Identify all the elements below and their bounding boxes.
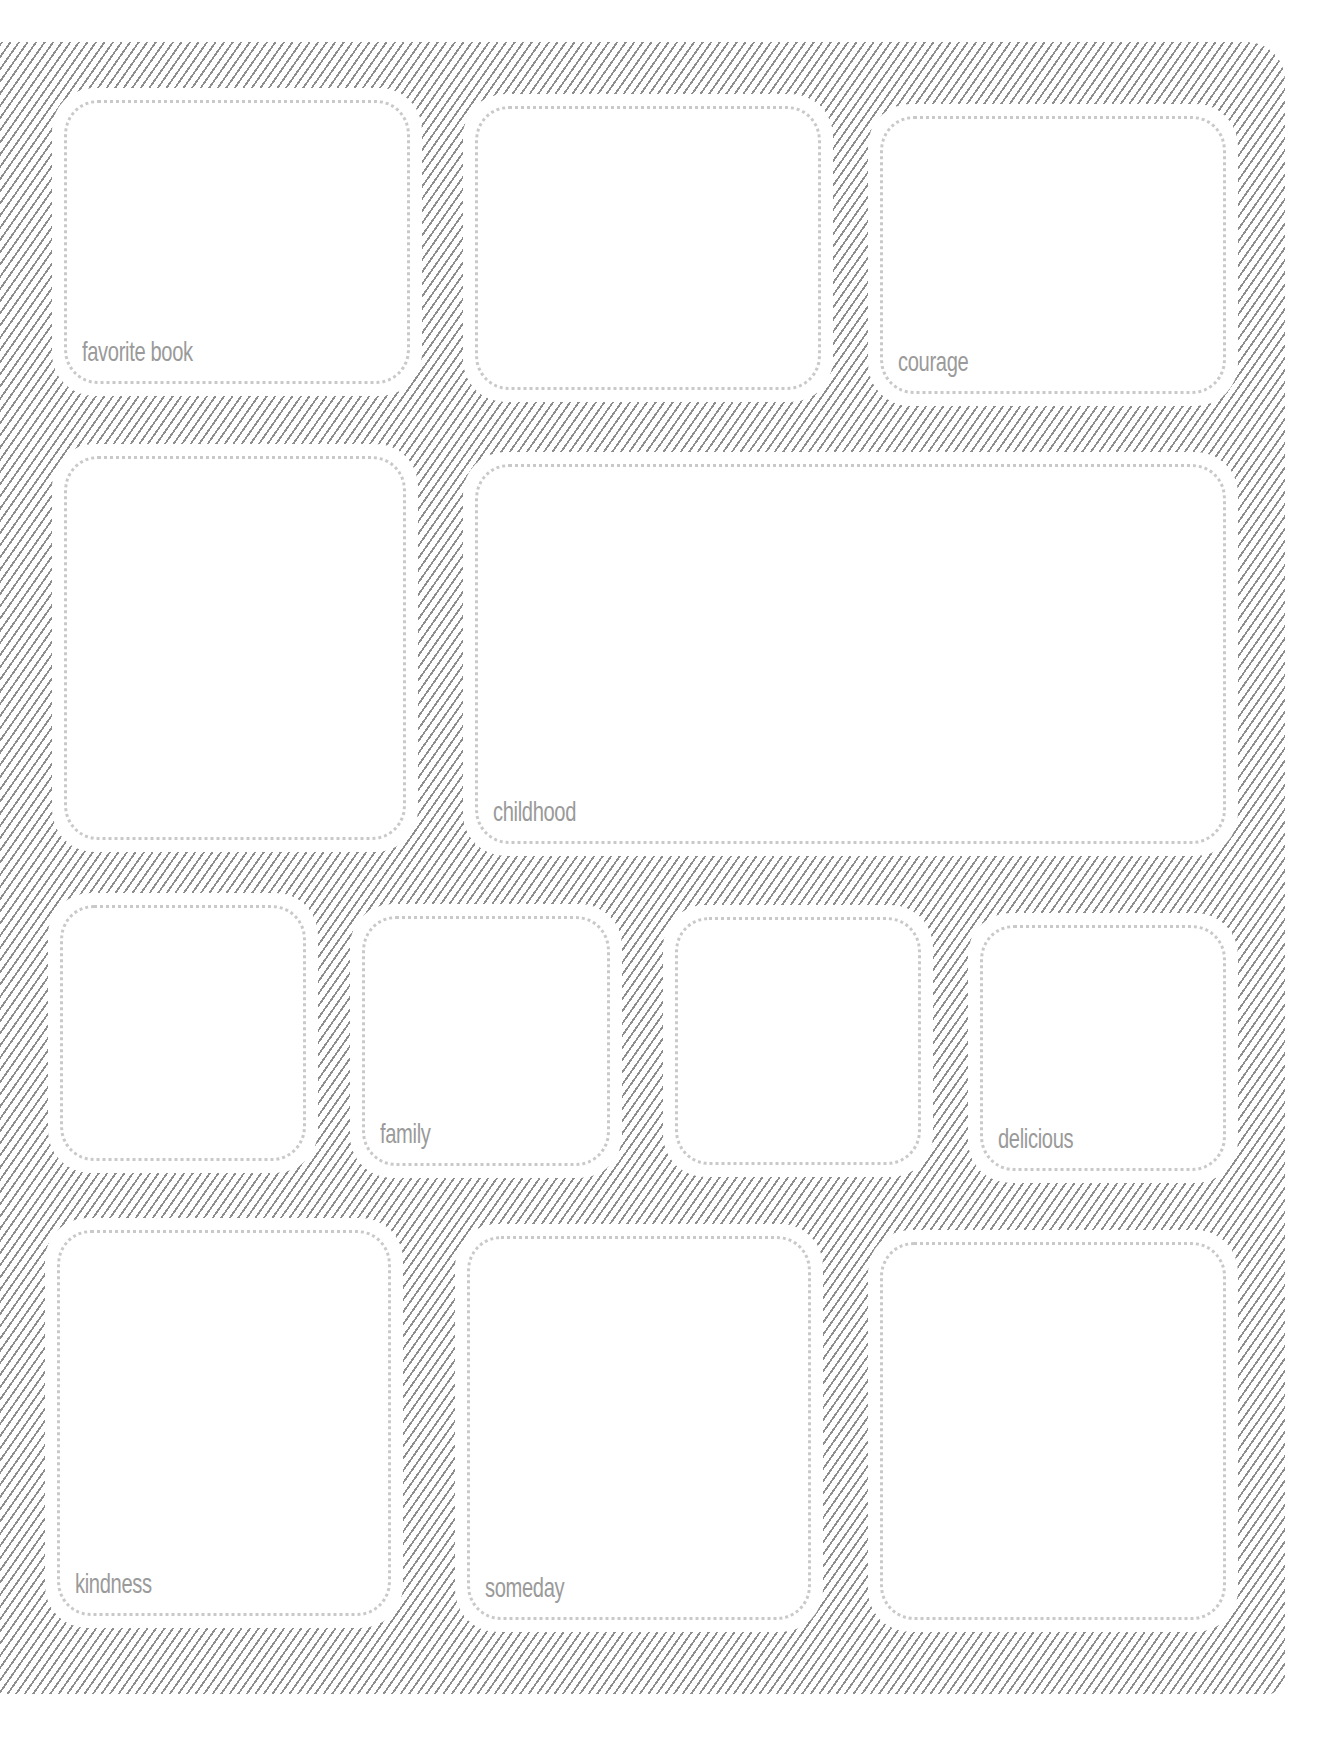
box-label: courage [898, 346, 968, 378]
dotted-border [475, 464, 1226, 844]
journal-box-blank-5[interactable] [868, 1230, 1238, 1632]
journal-box-delicious[interactable]: delicious [968, 913, 1238, 1183]
journal-box-blank-4[interactable] [663, 905, 933, 1177]
dotted-border [675, 917, 921, 1165]
dotted-border [64, 456, 406, 840]
dotted-border [467, 1236, 811, 1620]
journal-box-someday[interactable]: someday [455, 1224, 823, 1632]
box-label: kindness [75, 1568, 152, 1600]
dotted-border [60, 905, 306, 1161]
journal-box-courage[interactable]: courage [868, 104, 1238, 406]
box-label: childhood [493, 796, 576, 828]
dotted-border [57, 1230, 391, 1616]
box-label: favorite book [82, 336, 193, 368]
journal-box-childhood[interactable]: childhood [463, 452, 1238, 856]
dotted-border [880, 1242, 1226, 1620]
box-label: someday [485, 1572, 564, 1604]
journal-box-family[interactable]: family [350, 904, 622, 1178]
box-label: family [380, 1118, 430, 1150]
journal-box-kindness[interactable]: kindness [45, 1218, 403, 1628]
dotted-border [475, 106, 821, 390]
journal-box-blank-2[interactable] [52, 444, 418, 852]
journal-box-blank-1[interactable] [463, 94, 833, 402]
journal-box-favorite-book[interactable]: favorite book [52, 88, 422, 396]
journal-box-blank-3[interactable] [48, 893, 318, 1173]
box-label: delicious [998, 1123, 1073, 1155]
